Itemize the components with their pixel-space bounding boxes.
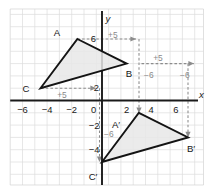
y-tick-label--2: −2 xyxy=(89,120,100,131)
vertex-label-C-prime: C′ xyxy=(89,171,98,182)
x-tick-label-4: 4 xyxy=(149,104,154,115)
vertex-label-C: C xyxy=(23,83,30,94)
vertex-label-B: B xyxy=(126,68,132,79)
x-tick-label-2: 2 xyxy=(124,104,129,115)
x-tick-label--6: −6 xyxy=(17,104,28,115)
vector-label-b-right: +5 xyxy=(153,53,163,63)
vector-label-a-right: +5 xyxy=(108,30,118,40)
coordinate-plane-svg: −6 −4 −2 0 2 4 6 6 2 −2 −4 y x A B C A′ … xyxy=(0,0,212,194)
x-tick-label-6: 6 xyxy=(173,104,178,115)
vertex-label-A: A xyxy=(54,27,61,38)
y-tick-label--4: −4 xyxy=(89,144,100,155)
vertex-label-B-prime: B′ xyxy=(187,143,195,154)
x-axis-label: x xyxy=(198,89,205,100)
coordinate-plane-figure: −6 −4 −2 0 2 4 6 6 2 −2 −4 y x A B C A′ … xyxy=(0,0,212,194)
vector-label-c-right: +5 xyxy=(57,90,67,100)
x-tick-label--2: −2 xyxy=(66,104,77,115)
x-tick-label-0: 0 xyxy=(91,104,96,115)
y-tick-label-2: 2 xyxy=(94,82,99,93)
vector-label-a-down: −6 xyxy=(144,70,154,80)
vector-label-b-down: −6 xyxy=(180,70,190,80)
x-tick-label--4: −4 xyxy=(42,104,53,115)
y-tick-label-6: 6 xyxy=(91,33,96,44)
vector-label-c-down: −6 xyxy=(104,129,114,139)
